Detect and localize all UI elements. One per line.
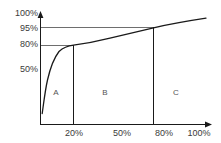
y-tick-label-95: 95%: [20, 23, 38, 33]
x-tick-label-80: 80%: [155, 128, 173, 138]
y-tick-label-80: 80%: [20, 39, 38, 49]
x-tick-label-50: 50%: [113, 128, 131, 138]
chart-canvas: 100% 95% 80% 50% 20% 50% 80% 100% A B C: [0, 0, 221, 143]
region-label-b: B: [102, 88, 107, 97]
y-tick-label-100: 100%: [15, 8, 38, 18]
x-tick-label-100: 100%: [187, 128, 210, 138]
x-tick-label-20: 20%: [65, 128, 83, 138]
region-label-c: C: [173, 88, 179, 97]
y-tick-label-50: 50%: [20, 64, 38, 74]
region-label-a: A: [53, 88, 59, 97]
abc-analysis-chart: 100% 95% 80% 50% 20% 50% 80% 100% A B C: [0, 0, 221, 143]
